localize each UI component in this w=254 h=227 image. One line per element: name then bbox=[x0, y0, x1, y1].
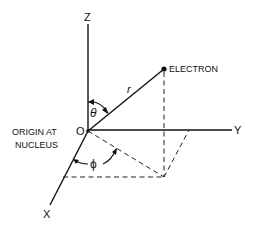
origin-note-line1: ORIGIN AT bbox=[12, 127, 57, 137]
theta-label: θ bbox=[90, 106, 97, 120]
theta-arrowhead bbox=[88, 99, 94, 105]
origin-note-line2: NUCLEUS bbox=[15, 140, 58, 150]
electron-label: ELECTRON bbox=[169, 64, 218, 74]
phi-arrowhead-right bbox=[112, 148, 117, 155]
radius-label: r bbox=[127, 83, 132, 95]
theta-arrowhead-end bbox=[102, 107, 108, 114]
z-axis-label: Z bbox=[84, 11, 91, 23]
spherical-coordinates-diagram: Z Y X O r θ ϕ ELECTRON ORIGIN AT NUCLEUS bbox=[0, 0, 254, 227]
phi-arrowhead-left bbox=[73, 159, 79, 164]
y-component-line bbox=[164, 130, 189, 177]
electron-dot bbox=[161, 66, 166, 71]
y-axis-label: Y bbox=[234, 124, 242, 136]
xy-projection-line bbox=[88, 131, 164, 177]
phi-label: ϕ bbox=[90, 157, 97, 171]
radius-line bbox=[88, 69, 164, 131]
origin-label: O bbox=[76, 125, 85, 137]
x-axis-label: X bbox=[43, 208, 51, 220]
